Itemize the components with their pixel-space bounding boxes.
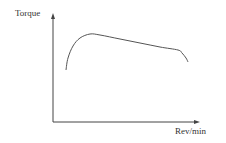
torque-curve <box>66 34 188 70</box>
torque-chart <box>0 0 226 143</box>
y-axis-arrow-icon <box>51 13 55 19</box>
y-axis-label: Torque <box>15 8 40 18</box>
x-axis-label: Rev/min <box>175 126 206 136</box>
x-axis-arrow-icon <box>194 120 200 124</box>
